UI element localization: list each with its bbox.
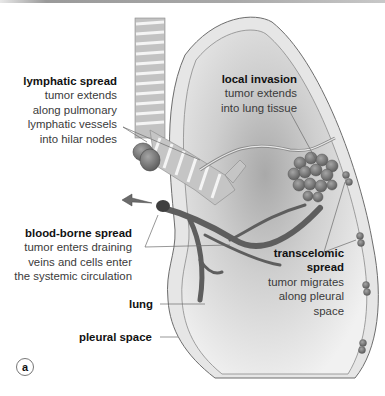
annotation-line: tumor extends xyxy=(221,86,297,100)
annotation-lymphatic-spread: lymphatic spread tumor extends along pul… xyxy=(23,74,117,146)
annotation-line: tumor extends xyxy=(23,88,117,102)
annotation-title: transcelomic xyxy=(268,246,344,260)
annotation-line: space xyxy=(268,304,344,318)
annotation-line: tumor enters draining xyxy=(14,240,132,254)
annotation-line: tumor migrates xyxy=(268,275,344,289)
annotation-line: the systemic circulation xyxy=(14,269,132,283)
annotation-blood-borne-spread: blood-borne spread tumor enters draining… xyxy=(14,226,132,284)
annotation-line: along pulmonary xyxy=(23,103,117,117)
annotation-title: local invasion xyxy=(221,72,297,86)
annotation-line: into hilar nodes xyxy=(23,132,117,146)
annotation-line: veins and cells enter xyxy=(14,255,132,269)
label-lung: lung xyxy=(129,297,153,311)
annotation-title: blood-borne spread xyxy=(14,226,132,240)
blood-flow-arrow xyxy=(122,194,152,206)
annotation-title: spread xyxy=(268,260,344,274)
lung-anatomy-illustration xyxy=(0,0,385,396)
label-pleural-space: pleural space xyxy=(79,330,152,344)
vein-end xyxy=(156,200,170,212)
annotation-transcelomic-spread: transcelomic spread tumor migrates along… xyxy=(268,246,344,318)
annotation-line: into lung tissue xyxy=(221,101,297,115)
annotation-line: along pleural xyxy=(268,289,344,303)
annotation-line: lymphatic vessels xyxy=(23,117,117,131)
panel-label: a xyxy=(16,358,34,376)
annotation-title: lymphatic spread xyxy=(23,74,117,88)
annotation-local-invasion: local invasion tumor extends into lung t… xyxy=(221,72,297,115)
